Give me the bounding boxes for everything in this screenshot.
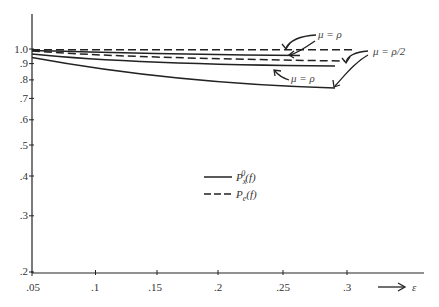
svg-text:.05: .05 xyxy=(26,281,40,293)
svg-text:.2: .2 xyxy=(20,265,28,277)
annotation-mu-rho-middle: μ = ρ xyxy=(290,72,315,84)
svg-text:.2: .2 xyxy=(214,281,222,293)
x-tick-labels: .05 .1 .15 .2 .25 .3 xyxy=(26,281,352,293)
chart: 1.0 .9 .8 .7 .6 .5 .4 .3 .2 .05 .1 .15 .… xyxy=(0,0,439,307)
svg-text:.5: .5 xyxy=(20,139,29,151)
svg-text:1.0: 1.0 xyxy=(14,43,28,55)
legend-solid-label: Px0(f) xyxy=(235,169,256,186)
svg-text:.8: .8 xyxy=(20,73,29,85)
annotation-mu-rho-half: μ = ρ/2 xyxy=(372,45,406,57)
svg-text:.3: .3 xyxy=(20,209,29,221)
x-axis-arrow xyxy=(378,283,405,291)
curve-p0x-mu-rho-half xyxy=(32,58,335,89)
svg-text:.25: .25 xyxy=(276,281,290,293)
svg-text:.4: .4 xyxy=(20,170,29,182)
svg-text:.1: .1 xyxy=(91,281,99,293)
annotation-mu-rho-top: μ = ρ xyxy=(317,28,342,40)
svg-text:.7: .7 xyxy=(20,92,29,104)
legend: Px0(f) Pe(f) xyxy=(204,169,257,203)
svg-text:.9: .9 xyxy=(20,57,29,69)
svg-text:.3: .3 xyxy=(343,281,352,293)
svg-text:.15: .15 xyxy=(148,281,162,293)
svg-text:.6: .6 xyxy=(20,113,29,125)
y-tick-labels: 1.0 .9 .8 .7 .6 .5 .4 .3 .2 xyxy=(14,43,28,277)
legend-dashed-label: Pe(f) xyxy=(235,188,257,203)
x-axis-label: ε xyxy=(412,281,417,293)
